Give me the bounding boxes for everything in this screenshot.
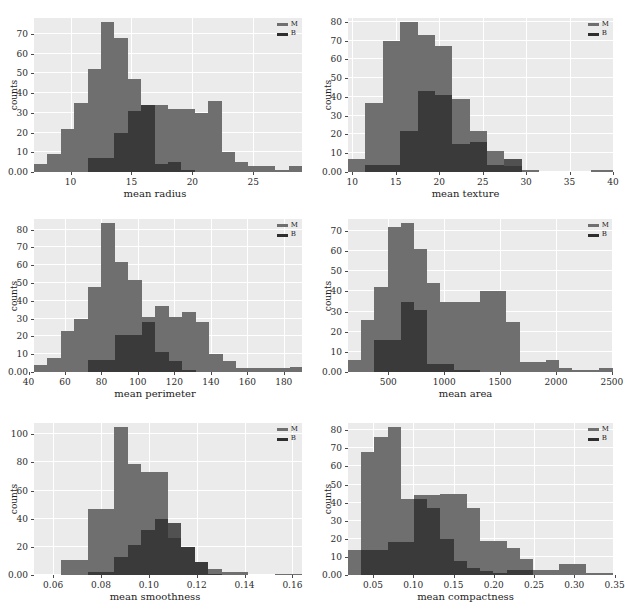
x-axis-tick-mark (615, 575, 616, 578)
y-axis-tick-mark (31, 434, 34, 435)
legend-item-B: B (588, 230, 609, 239)
histogram-bar (61, 331, 74, 372)
y-axis-tick-mark (31, 354, 34, 355)
histogram-bar (559, 564, 572, 575)
y-axis-tick-label: 0.00 (0, 367, 28, 377)
x-axis-label: mean compactness (310, 591, 621, 602)
y-axis-tick-mark (31, 133, 34, 134)
x-axis-tick-mark (284, 372, 285, 375)
x-axis-tick-label: 20 (433, 177, 444, 187)
histogram-bar (573, 564, 586, 575)
y-axis-tick-label: 60 (310, 246, 342, 256)
histogram-bar (470, 142, 487, 172)
y-axis-tick-mark (345, 172, 348, 173)
y-axis-tick-label: 70 (0, 242, 28, 252)
x-axis-tick-mark (65, 372, 66, 375)
histogram-bar (168, 523, 181, 575)
histogram-bar (195, 562, 208, 575)
x-axis-tick-mark (131, 172, 132, 175)
histogram-bar (34, 365, 47, 372)
y-axis-tick-mark (345, 251, 348, 252)
histogram-bar (572, 370, 585, 372)
histogram-bar (101, 22, 114, 172)
y-axis-tick-mark (31, 93, 34, 94)
legend-label: B (602, 434, 607, 443)
x-axis-tick-label: 0.14 (235, 580, 255, 590)
histogram-bar (47, 154, 60, 172)
legend-swatch-icon (277, 428, 288, 431)
legend-item-B: B (588, 434, 609, 443)
x-axis-tick-label: 0.35 (605, 580, 625, 590)
histogram-bar (427, 283, 440, 372)
histogram-bar (520, 362, 533, 372)
histogram-bar (467, 302, 480, 372)
y-axis-tick-mark (31, 172, 34, 173)
legend-swatch-icon (277, 438, 288, 441)
legend-label: B (602, 29, 607, 38)
y-axis-tick-label: 20 (310, 534, 342, 544)
histogram-bar (361, 320, 374, 372)
x-axis-label: mean smoothness (0, 591, 310, 602)
x-axis-tick-mark (574, 575, 575, 578)
x-axis-tick-label: 25 (248, 177, 259, 187)
legend-mean-radius: MB (277, 20, 298, 39)
y-axis-tick-label: 20 (310, 327, 342, 337)
y-axis-tick-label: 10 (310, 347, 342, 357)
histogram-bar (374, 340, 387, 372)
legend-label: B (602, 230, 607, 239)
x-axis-tick-mark (612, 372, 613, 375)
histogram-bar (88, 69, 101, 172)
y-axis-tick-label: 10 (310, 552, 342, 562)
bars-mean-compactness (348, 423, 613, 575)
x-axis-tick-label: 20 (187, 177, 198, 187)
gridline-vertical (615, 423, 616, 575)
y-axis-tick-mark (31, 519, 34, 520)
x-axis-tick-label: 40 (23, 377, 34, 387)
histogram-bar (114, 557, 127, 575)
y-axis-tick-mark (345, 231, 348, 232)
histogram-bar (520, 570, 533, 575)
x-axis-tick-label: 15 (126, 177, 137, 187)
histogram-bar (88, 572, 101, 575)
bars-mean-texture (348, 18, 613, 172)
x-axis-tick-label: 0.30 (564, 580, 584, 590)
x-axis-tick-mark (373, 575, 374, 578)
x-axis-tick-label: 180 (275, 377, 292, 387)
histogram-bar (454, 561, 467, 575)
y-axis-tick-label: 60 (310, 54, 342, 64)
legend-item-M: M (277, 425, 298, 434)
histogram-bar (101, 509, 114, 575)
y-axis-tick-mark (345, 153, 348, 154)
histogram-bar (467, 568, 480, 575)
x-axis-tick-mark (534, 575, 535, 578)
histogram-bar (182, 370, 195, 372)
panel-mean-perimeter: 0.00102030405060708040608010012014016018… (0, 205, 310, 405)
histogram-bar (88, 509, 101, 575)
x-axis-tick-mark (192, 172, 193, 175)
histogram-bar (440, 539, 453, 575)
x-axis-tick-mark (556, 372, 557, 375)
histogram-bar (440, 302, 453, 372)
legend-label: M (602, 20, 609, 29)
y-axis-tick-mark (345, 134, 348, 135)
x-axis-label: mean perimeter (0, 388, 310, 399)
legend-item-B: B (277, 434, 298, 443)
histogram-bar (480, 571, 493, 575)
histogram-bar (275, 170, 288, 172)
histogram-bar (374, 550, 387, 575)
histogram-bar (101, 360, 114, 372)
y-axis-tick-mark (31, 283, 34, 284)
y-axis-tick-mark (345, 22, 348, 23)
histogram-bar (480, 541, 493, 575)
y-axis-tick-mark (345, 116, 348, 117)
histogram-bar (522, 170, 539, 172)
y-axis-label: counts (323, 479, 333, 519)
y-axis-tick-label: 0.00 (310, 367, 342, 377)
histogram-bar (401, 542, 414, 575)
y-axis-tick-label: 50 (310, 266, 342, 276)
histogram-bar (414, 310, 427, 372)
histogram-bar (348, 360, 361, 372)
histogram-bar (388, 340, 401, 372)
plot-area-mean-radius (34, 18, 302, 172)
legend-label: M (602, 221, 609, 230)
